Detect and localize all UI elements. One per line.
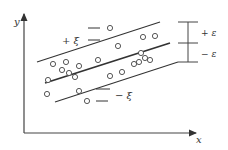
data-point: [115, 43, 120, 48]
minus-epsilon-label: − ε: [201, 49, 216, 59]
data-point: [76, 88, 81, 93]
epsilon-bracket: [178, 22, 198, 62]
minus-xi-label: − ξ: [115, 90, 133, 101]
data-point: [50, 61, 55, 66]
data-point: [107, 25, 112, 30]
data-point: [95, 57, 100, 62]
data-point: [152, 33, 157, 38]
data-point: [142, 55, 147, 60]
data-point: [138, 50, 143, 55]
data-point: [59, 67, 64, 72]
data-point: [136, 59, 141, 64]
data-point: [72, 74, 77, 79]
data-point: [119, 69, 124, 74]
data-point: [45, 77, 50, 82]
data-point: [147, 57, 152, 62]
plus-epsilon-label: + ε: [201, 28, 216, 38]
data-point: [131, 61, 136, 66]
data-point: [76, 63, 81, 68]
data-point: [63, 59, 68, 64]
plus-xi-label: + ξ: [62, 35, 80, 46]
data-point: [66, 70, 71, 75]
data-point: [44, 91, 49, 96]
data-point: [140, 34, 145, 39]
x-axis-label: x: [196, 134, 202, 145]
y-axis-label: y: [13, 16, 20, 27]
data-point: [84, 98, 89, 103]
data-point: [107, 73, 112, 78]
svr-epsilon-tube-diagram: y x + ξ − ξ + ε − ε: [0, 0, 228, 150]
